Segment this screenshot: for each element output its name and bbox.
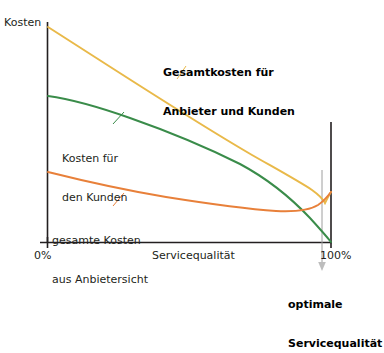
- provider-cost-label-line1: gesamte Kosten: [52, 235, 148, 248]
- optimum-pointer-arrow: [318, 262, 326, 271]
- optimal-quality-label: optimale Servicequalität: [288, 273, 382, 353]
- customer-cost-label-line2: den Kunden: [62, 192, 128, 205]
- x-tick-label-100: 100%: [320, 250, 351, 263]
- optimal-quality-label-line1: optimale: [288, 299, 382, 312]
- total-cost-label: Gesamtkosten für Anbieter und Kunden: [163, 41, 295, 145]
- total-cost-label-line2: Anbieter und Kunden: [163, 106, 295, 119]
- x-axis-title: Servicequalität: [152, 250, 235, 263]
- provider-cost-label-line2: aus Anbietersicht: [52, 274, 148, 287]
- optimal-quality-label-line2: Servicequalität: [288, 338, 382, 351]
- x-tick-label-0: 0%: [34, 250, 51, 263]
- total-cost-label-line1: Gesamtkosten für: [163, 67, 295, 80]
- customer-cost-label-line1: Kosten für: [62, 153, 128, 166]
- provider-cost-label: gesamte Kosten aus Anbietersicht: [52, 209, 148, 313]
- y-axis-title: Kosten: [4, 17, 41, 30]
